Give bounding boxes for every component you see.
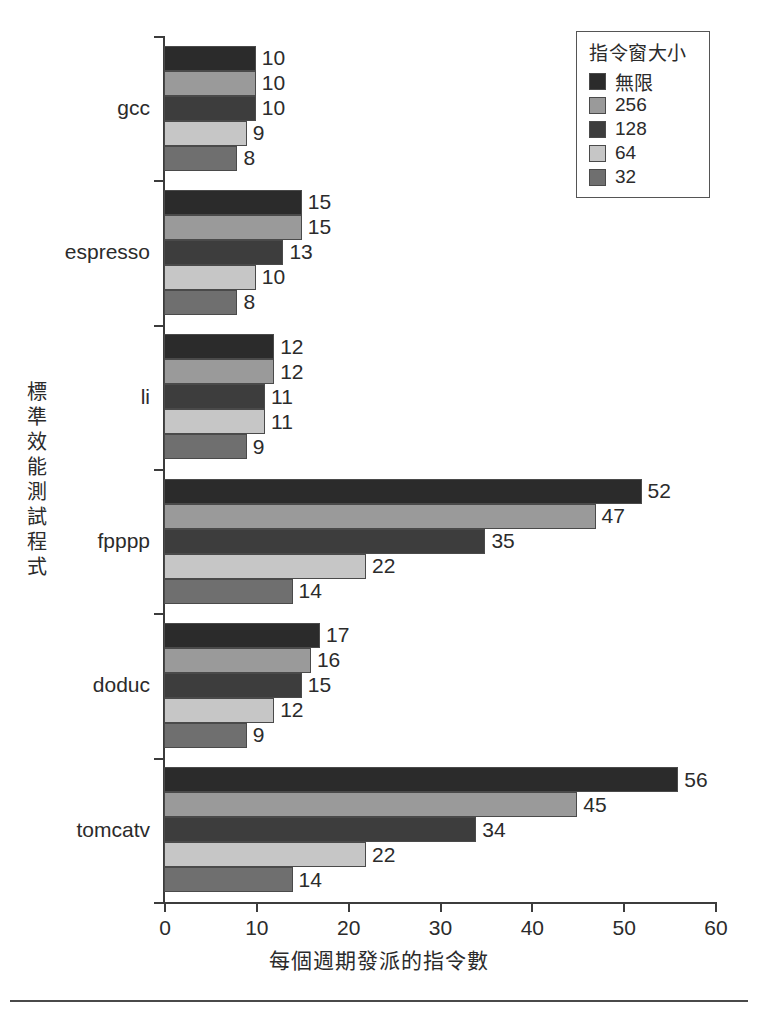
category-label: gcc — [117, 96, 150, 120]
bar-row: 22 — [164, 554, 715, 579]
bar-value-label: 15 — [308, 673, 331, 697]
legend-swatch-icon — [589, 97, 606, 114]
bar-row: 11 — [164, 409, 715, 434]
legend-item[interactable]: 64 — [589, 141, 699, 165]
bar[interactable] — [164, 648, 311, 673]
bottom-divider — [10, 1000, 748, 1002]
bar[interactable] — [164, 867, 293, 892]
bar-group: tomcatv5645342214 — [164, 758, 715, 902]
bar[interactable] — [164, 623, 320, 648]
y-axis-tick — [154, 36, 164, 38]
y-axis-tick — [154, 613, 164, 615]
bar[interactable] — [164, 409, 265, 434]
x-axis-tick-label: 40 — [521, 916, 544, 940]
bar-row: 45 — [164, 792, 715, 817]
x-axis-tick — [256, 902, 258, 912]
bar[interactable] — [164, 121, 247, 146]
category-label: espresso — [65, 240, 150, 264]
bar-value-label: 9 — [253, 723, 265, 747]
x-axis-tick-label: 60 — [704, 916, 727, 940]
legend-swatch-icon — [589, 169, 606, 186]
bar-value-label: 12 — [280, 359, 303, 383]
bar[interactable] — [164, 792, 577, 817]
bar[interactable] — [164, 46, 256, 71]
bar-row: 9 — [164, 723, 715, 748]
bar-value-label: 11 — [271, 409, 293, 433]
y-axis-tick — [154, 325, 164, 327]
x-axis-tick-label: 10 — [245, 916, 268, 940]
legend-label: 256 — [615, 94, 647, 116]
legend-item[interactable]: 無限 — [589, 69, 699, 93]
x-axis-tick — [715, 902, 717, 912]
legend-item[interactable]: 32 — [589, 165, 699, 189]
bar-row: 12 — [164, 698, 715, 723]
y-axis-tick — [154, 902, 164, 904]
bar[interactable] — [164, 240, 283, 265]
bar[interactable] — [164, 384, 265, 409]
bar-value-label: 13 — [289, 240, 312, 264]
bar[interactable] — [164, 842, 366, 867]
bar-row: 15 — [164, 215, 715, 240]
bar[interactable] — [164, 359, 274, 384]
bar[interactable] — [164, 334, 274, 359]
category-label: doduc — [93, 673, 150, 697]
bar[interactable] — [164, 579, 293, 604]
bar[interactable] — [164, 673, 302, 698]
bar[interactable] — [164, 504, 596, 529]
bar[interactable] — [164, 529, 485, 554]
bar-value-label: 10 — [262, 71, 285, 95]
legend-items: 無限2561286432 — [589, 69, 699, 189]
bar[interactable] — [164, 215, 302, 240]
category-label: tomcatv — [76, 818, 150, 842]
bar[interactable] — [164, 817, 476, 842]
bar-row: 11 — [164, 384, 715, 409]
bar-row: 14 — [164, 579, 715, 604]
bar[interactable] — [164, 767, 678, 792]
bar-value-label: 9 — [253, 121, 265, 145]
bar[interactable] — [164, 698, 274, 723]
bar[interactable] — [164, 723, 247, 748]
bar-value-label: 14 — [299, 867, 322, 891]
x-axis-tick-label: 50 — [612, 916, 635, 940]
bar-row: 16 — [164, 648, 715, 673]
bar-row: 9 — [164, 434, 715, 459]
bar[interactable] — [164, 479, 642, 504]
bar[interactable] — [164, 434, 247, 459]
category-label: fpppp — [97, 529, 150, 553]
x-axis-title: 每個週期發派的指令數 — [0, 944, 758, 974]
bar[interactable] — [164, 146, 237, 171]
x-axis-tick-label: 0 — [159, 916, 171, 940]
bar-value-label: 12 — [280, 698, 303, 722]
bar-row: 22 — [164, 842, 715, 867]
bar-value-label: 11 — [271, 384, 293, 408]
bar-row: 17 — [164, 623, 715, 648]
bar-value-label: 22 — [372, 842, 395, 866]
x-axis-tick — [531, 902, 533, 912]
x-axis-tick — [348, 902, 350, 912]
legend-label: 無限 — [615, 68, 653, 95]
bar[interactable] — [164, 265, 256, 290]
legend-label: 128 — [615, 118, 647, 140]
legend-label: 32 — [615, 166, 636, 188]
bar[interactable] — [164, 71, 256, 96]
bar-value-label: 10 — [262, 265, 285, 289]
bar-value-label: 9 — [253, 434, 265, 458]
bar-chart-figure: 標準效能測試程式 gcc10101098espresso151513108li1… — [0, 0, 758, 1019]
bar-value-label: 22 — [372, 554, 395, 578]
bar-row: 56 — [164, 767, 715, 792]
legend-swatch-icon — [589, 121, 606, 138]
bar[interactable] — [164, 190, 302, 215]
bar-value-label: 8 — [243, 146, 255, 170]
legend-item[interactable]: 128 — [589, 117, 699, 141]
bar-value-label: 52 — [648, 479, 671, 503]
bar-group: li121211119 — [164, 325, 715, 469]
legend-item[interactable]: 256 — [589, 93, 699, 117]
bar-row: 52 — [164, 479, 715, 504]
bar-row: 14 — [164, 867, 715, 892]
bar[interactable] — [164, 554, 366, 579]
x-axis-tick-label: 30 — [429, 916, 452, 940]
bar[interactable] — [164, 290, 237, 315]
bar[interactable] — [164, 96, 256, 121]
bar-value-label: 15 — [308, 215, 331, 239]
bar-row: 15 — [164, 673, 715, 698]
